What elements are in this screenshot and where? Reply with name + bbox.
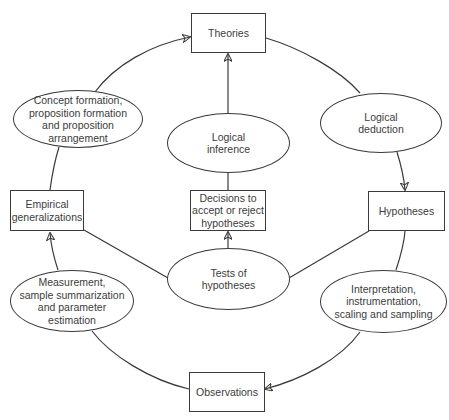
- edge-theories-to-logical-deduction: [266, 38, 360, 93]
- node-empirical-generalizations: Empirical generalizations: [10, 190, 84, 231]
- node-logical-inference: Logical inference: [167, 113, 290, 173]
- edge-interpretation-to-observations: [265, 332, 360, 389]
- edge-hypotheses-to-interpretation: [396, 231, 405, 270]
- wheel-of-science-diagram: Theories Hypotheses Observations Empiric…: [0, 0, 449, 420]
- node-tests-of-hypotheses: Tests of hypotheses: [167, 248, 290, 310]
- edge-observations-to-measurement: [92, 331, 189, 389]
- node-observations: Observations: [189, 372, 265, 412]
- edge-empirical-to-tests: [84, 230, 168, 278]
- node-logical-deduction: Logical deduction: [320, 93, 442, 153]
- node-hypotheses-label: Hypotheses: [379, 205, 434, 218]
- edge-measurement-to-empirical: [50, 233, 58, 270]
- node-logical-inference-label: Logical inference: [207, 131, 250, 156]
- edge-logical-deduction-to-hypotheses: [397, 152, 405, 190]
- node-observations-label: Observations: [196, 386, 258, 399]
- node-theories: Theories: [191, 13, 266, 53]
- node-decisions: Decisions to accept or reject hypotheses: [190, 190, 266, 231]
- node-theories-label: Theories: [208, 27, 249, 40]
- node-measurement: Measurement, sample summarization and pa…: [10, 270, 134, 332]
- node-hypotheses: Hypotheses: [368, 191, 445, 231]
- node-decisions-label: Decisions to accept or reject hypotheses: [192, 192, 264, 230]
- node-concept-formation: Concept formation, proposition formation…: [13, 90, 143, 148]
- node-tests-of-hypotheses-label: Tests of hypotheses: [202, 267, 256, 292]
- node-interpretation-label: Interpretation, instrumentation, scaling…: [334, 283, 432, 321]
- edge-concept-to-theories: [95, 37, 190, 92]
- edge-hypotheses-to-tests: [289, 231, 369, 278]
- node-concept-formation-label: Concept formation, proposition formation…: [29, 94, 127, 144]
- edge-empirical-to-concept: [50, 147, 59, 190]
- node-empirical-generalizations-label: Empirical generalizations: [12, 198, 83, 223]
- node-logical-deduction-label: Logical deduction: [358, 111, 404, 136]
- node-measurement-label: Measurement, sample summarization and pa…: [19, 276, 124, 326]
- node-interpretation: Interpretation, instrumentation, scaling…: [320, 270, 447, 333]
